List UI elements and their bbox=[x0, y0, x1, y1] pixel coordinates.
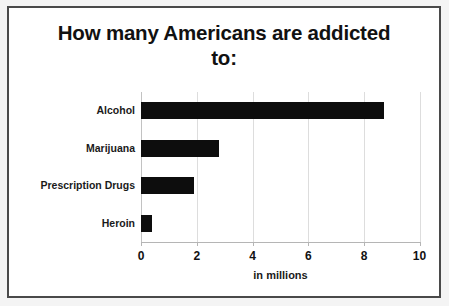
bar-prescription-drugs[interactable] bbox=[141, 177, 194, 194]
category-label-marijuana: Marijuana bbox=[86, 140, 135, 157]
x-tick-label-10: 10 bbox=[405, 249, 435, 263]
bar-row-alcohol: Alcohol bbox=[141, 92, 420, 130]
chart-page: How many Americans are addicted to: Alco… bbox=[0, 0, 449, 306]
chart-title: How many Americans are addicted to: bbox=[21, 20, 427, 70]
tick-mark-10 bbox=[420, 242, 421, 246]
plot-area: Alcohol Marijuana Prescription Drugs Her… bbox=[141, 92, 420, 242]
tick-mark-6 bbox=[308, 242, 309, 246]
tick-mark-8 bbox=[364, 242, 365, 246]
category-label-prescription-drugs: Prescription Drugs bbox=[40, 177, 135, 194]
bar-heroin[interactable] bbox=[141, 215, 152, 232]
bar-row-marijuana: Marijuana bbox=[141, 130, 420, 168]
chart-title-line-1: How many Americans are addicted bbox=[58, 21, 391, 44]
x-axis-line bbox=[141, 242, 420, 243]
x-tick-label-6: 6 bbox=[293, 249, 323, 263]
x-axis-title: in millions bbox=[141, 269, 420, 281]
bar-row-prescription-drugs: Prescription Drugs bbox=[141, 167, 420, 205]
bar-marijuana[interactable] bbox=[141, 140, 219, 157]
category-label-alcohol: Alcohol bbox=[97, 102, 136, 119]
bar-row-heroin: Heroin bbox=[141, 205, 420, 243]
tick-mark-0 bbox=[141, 242, 142, 246]
tick-mark-4 bbox=[253, 242, 254, 246]
x-tick-label-0: 0 bbox=[126, 249, 156, 263]
category-label-heroin: Heroin bbox=[102, 215, 135, 232]
plot-wrapper: Alcohol Marijuana Prescription Drugs Her… bbox=[9, 88, 439, 296]
chart-frame: How many Americans are addicted to: Alco… bbox=[7, 6, 441, 298]
tick-mark-2 bbox=[197, 242, 198, 246]
x-tick-label-2: 2 bbox=[182, 249, 212, 263]
x-tick-label-4: 4 bbox=[238, 249, 268, 263]
x-tick-label-8: 8 bbox=[349, 249, 379, 263]
bar-alcohol[interactable] bbox=[141, 102, 384, 119]
chart-title-line-2: to: bbox=[211, 46, 237, 69]
